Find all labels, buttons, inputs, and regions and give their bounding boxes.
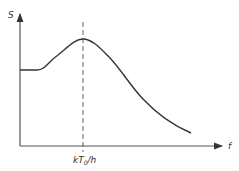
x-axis-label: f: [228, 141, 233, 151]
peak-label-rest: /h: [87, 155, 97, 165]
y-axis-label: S: [8, 10, 14, 20]
peak-frequency-label: kT0/h: [73, 155, 97, 166]
spectrum-diagram: S f kT0/h: [0, 0, 239, 171]
spectrum-curve: [20, 39, 191, 133]
